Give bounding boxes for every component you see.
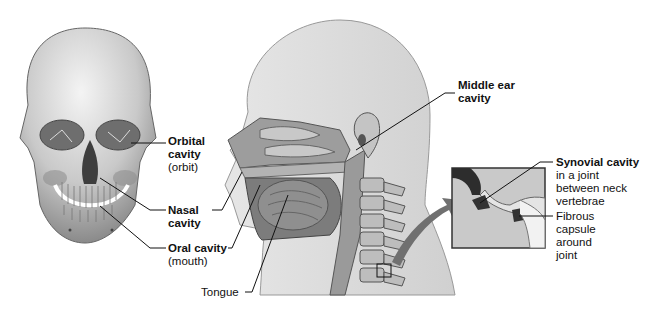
label-orbital-cavity: Orbital cavity (orbit) (168, 135, 205, 174)
label-oral-cavity: Oral cavity (mouth) (168, 242, 227, 268)
label-orbital-title2: cavity (168, 148, 205, 161)
skull-illustration (20, 28, 156, 243)
label-synovial-line1: in a joint (556, 169, 639, 182)
label-oral-sub: (mouth) (168, 255, 227, 268)
label-oral-title: Oral cavity (168, 242, 227, 255)
label-fibrous-line3: around (556, 236, 596, 249)
label-synovial-title: Synovial cavity (556, 156, 639, 169)
label-fibrous-line2: capsule (556, 223, 596, 236)
label-fibrous-line1: Fibrous (556, 210, 596, 223)
joint-inset (452, 168, 545, 248)
label-nasal-title2: cavity (168, 217, 201, 230)
label-nasal-cavity: Nasal cavity (168, 204, 201, 230)
label-synovial-line2: between neck (556, 182, 639, 195)
label-fibrous-line4: joint (556, 249, 596, 262)
label-tongue: Tongue (201, 286, 239, 299)
label-middle-ear-title: Middle ear (458, 79, 515, 92)
label-synovial-cavity: Synovial cavity in a joint between neck … (556, 156, 639, 208)
label-orbital-sub: (orbit) (168, 161, 205, 174)
label-nasal-title: Nasal (168, 204, 201, 217)
label-fibrous-capsule: Fibrous capsule around joint (556, 210, 596, 262)
label-synovial-line3: vertebrae (556, 195, 639, 208)
head-sagittal-illustration (225, 20, 455, 295)
label-tongue-text: Tongue (201, 286, 239, 299)
label-orbital-title: Orbital (168, 135, 205, 148)
label-middle-ear-cavity: Middle ear cavity (458, 79, 515, 105)
label-middle-ear-title2: cavity (458, 92, 515, 105)
